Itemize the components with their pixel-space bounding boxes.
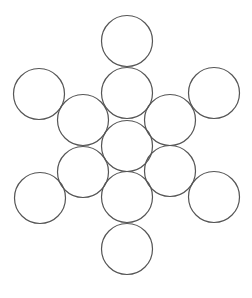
circle-pattern-diagram bbox=[0, 0, 252, 298]
background bbox=[0, 0, 252, 298]
